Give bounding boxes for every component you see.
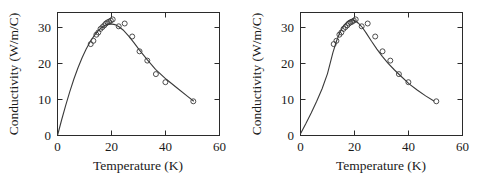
data-point [373,34,378,39]
axis-ticks-left [58,13,220,136]
data-point [380,49,385,54]
fit-curve-right [301,20,435,134]
data-markers-left [88,17,196,104]
chart-panel-left: 0 20 40 60 0 10 20 30 Temperature (K) Co… [0,0,243,182]
ytick-label: 10 [38,92,51,107]
chart-panel-right: 0 20 40 60 0 10 20 30 Temperature (K) Co… [243,0,486,182]
xtick-label: 0 [297,139,304,154]
plot-frame-left [58,13,220,136]
xtick-label: 20 [348,139,361,154]
xtick-label: 20 [105,139,118,154]
data-point [130,34,135,39]
data-point [388,58,393,63]
data-point [365,21,370,26]
x-axis-title: Temperature (K) [93,158,183,173]
ytick-label: 0 [288,128,295,143]
y-axis-title: Conductivity (W/m/C) [6,13,21,136]
axis-tick-labels-right: 0 20 40 60 0 10 20 30 [281,20,469,154]
data-point [122,21,127,26]
xtick-label: 0 [54,139,61,154]
ytick-label: 30 [281,20,294,35]
plot-frame-right [301,13,463,136]
fit-curve-left [58,24,194,136]
ytick-label: 30 [38,20,51,35]
axis-ticks-right [301,13,463,136]
data-point [163,80,168,85]
x-axis-title: Temperature (K) [336,158,426,173]
plot-svg-right: 0 20 40 60 0 10 20 30 Temperature (K) Co… [243,0,486,182]
ytick-label: 10 [281,92,294,107]
ytick-label: 20 [281,56,294,71]
data-point [153,72,158,77]
xtick-label: 40 [159,139,172,154]
xtick-label: 60 [213,139,226,154]
y-axis-title: Conductivity (W/m/C) [249,13,264,136]
xtick-label: 60 [456,139,469,154]
data-point [434,99,439,104]
ytick-label: 0 [45,128,52,143]
data-point [91,38,96,43]
ytick-label: 20 [38,56,51,71]
xtick-label: 40 [402,139,415,154]
figure-container: 0 20 40 60 0 10 20 30 Temperature (K) Co… [0,0,487,182]
plot-svg-left: 0 20 40 60 0 10 20 30 Temperature (K) Co… [0,0,243,182]
